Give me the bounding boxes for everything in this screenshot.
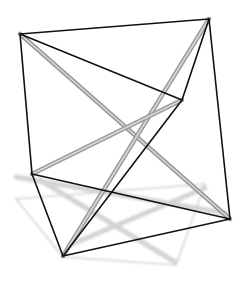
strut-highlight xyxy=(63,19,209,256)
cable-AD xyxy=(20,34,32,174)
shadow-edge xyxy=(16,199,63,257)
shadow xyxy=(16,177,225,265)
tensegrity-illustration xyxy=(0,0,244,282)
cable-AB xyxy=(20,19,209,34)
cable-AC xyxy=(20,34,182,100)
shadow-edge xyxy=(63,257,176,265)
cable-BE xyxy=(209,19,230,219)
